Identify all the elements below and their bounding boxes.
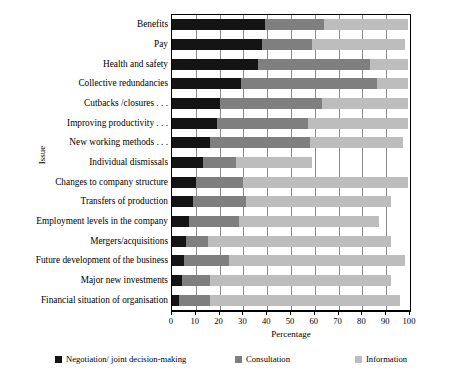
stacked-bar-chart: Issue BenefitsPayHealth and safetyCollec… (0, 0, 451, 380)
bar-segment-negotiation (172, 295, 179, 306)
bar-segment-information (324, 19, 407, 30)
x-tick (219, 311, 220, 315)
category-label: Major new investments (18, 275, 168, 285)
category-label: Improving productivity . . . (18, 118, 168, 128)
bar-segment-information (243, 177, 407, 188)
bar-segment-information (308, 118, 408, 129)
category-label-column: BenefitsPayHealth and safetyCollective r… (18, 14, 168, 311)
bar-segment-consultation (220, 98, 322, 109)
x-tick-label: 0 (159, 316, 183, 326)
bar-segment-information (312, 39, 405, 50)
category-label: New working methods . . . (18, 137, 168, 147)
x-tick (314, 311, 315, 315)
bar-segment-information (370, 59, 408, 70)
bar-row (172, 98, 408, 109)
category-label: Financial situation of organisation (18, 295, 168, 305)
bar-segment-consultation (217, 118, 307, 129)
x-tick (242, 311, 243, 315)
bar-segment-information (208, 236, 391, 247)
bar-segment-information (236, 157, 312, 168)
bar-segment-negotiation (172, 19, 265, 30)
legend-item-consultation[interactable]: Consultation (235, 354, 290, 364)
bar-segment-negotiation (172, 59, 258, 70)
category-label: Future development of the business (18, 255, 168, 265)
x-tick-label: 40 (254, 316, 278, 326)
bar-segment-negotiation (172, 255, 184, 266)
x-tick (171, 311, 172, 315)
bar-row (172, 255, 405, 266)
legend-item-information[interactable]: Information (355, 354, 407, 364)
bar-row (172, 275, 391, 286)
bar-segment-negotiation (172, 196, 193, 207)
bar-segment-consultation (258, 59, 370, 70)
legend-item-negotiation[interactable]: Negotiation/ joint decision-making (55, 354, 186, 364)
bar-segment-consultation (203, 157, 236, 168)
bar-segment-information (322, 98, 408, 109)
bar-row (172, 39, 405, 50)
bar-segment-consultation (182, 275, 211, 286)
bar-segment-negotiation (172, 78, 241, 89)
bar-segment-consultation (196, 177, 244, 188)
bar-segment-consultation (241, 78, 377, 89)
bar-row (172, 157, 312, 168)
bar-row (172, 59, 408, 70)
x-tick-label: 50 (278, 316, 302, 326)
category-label: Mergers/acquisitions (18, 236, 168, 246)
x-axis-title: Percentage (171, 329, 411, 339)
x-tick-label: 60 (302, 316, 326, 326)
bar-row (172, 295, 400, 306)
bar-segment-negotiation (172, 137, 210, 148)
x-tick (409, 311, 410, 315)
category-label: Pay (18, 39, 168, 49)
bar-segment-negotiation (172, 98, 220, 109)
bar-segment-negotiation (172, 177, 196, 188)
legend-swatch-icon (235, 356, 242, 363)
x-tick (338, 311, 339, 315)
legend-label: Consultation (246, 354, 290, 364)
x-tick (361, 311, 362, 315)
grid-and-bars (172, 15, 410, 310)
legend-swatch-icon (55, 356, 62, 363)
category-label: Employment levels in the company (18, 216, 168, 226)
bar-segment-consultation (193, 196, 245, 207)
bar-segment-negotiation (172, 157, 203, 168)
plot-area (171, 14, 411, 311)
bar-segment-consultation (179, 295, 210, 306)
category-label: Health and safety (18, 59, 168, 69)
category-label: Cutbacks /closures . . . (18, 98, 168, 108)
bar-segment-negotiation (172, 216, 189, 227)
x-tick (266, 311, 267, 315)
category-label: Collective redundancies (18, 78, 168, 88)
category-label: Changes to company structure (18, 177, 168, 187)
bar-segment-information (310, 137, 403, 148)
x-tick-label: 100 (397, 316, 421, 326)
x-tick-label: 20 (207, 316, 231, 326)
x-tick-label: 70 (326, 316, 350, 326)
bar-segment-information (377, 78, 408, 89)
x-tick (195, 311, 196, 315)
legend-label: Information (366, 354, 407, 364)
x-tick-label: 30 (230, 316, 254, 326)
x-tick-label: 80 (349, 316, 373, 326)
bar-segment-information (210, 275, 391, 286)
x-tick-label: 10 (183, 316, 207, 326)
x-tick-label: 90 (373, 316, 397, 326)
category-label: Individual dismissals (18, 157, 168, 167)
bar-segment-consultation (189, 216, 239, 227)
bar-row (172, 19, 408, 30)
bar-segment-consultation (184, 255, 229, 266)
legend-label: Negotiation/ joint decision-making (66, 354, 186, 364)
bar-segment-consultation (210, 137, 310, 148)
bar-segment-negotiation (172, 118, 217, 129)
bar-row (172, 196, 391, 207)
bar-segment-information (229, 255, 405, 266)
legend-swatch-icon (355, 356, 362, 363)
x-tick (385, 311, 386, 315)
chart-legend: Negotiation/ joint decision-makingConsul… (55, 354, 440, 368)
bar-segment-consultation (265, 19, 325, 30)
bar-segment-negotiation (172, 39, 262, 50)
bar-row (172, 236, 391, 247)
bar-row (172, 216, 379, 227)
bar-row (172, 118, 408, 129)
x-axis-line (171, 311, 411, 312)
